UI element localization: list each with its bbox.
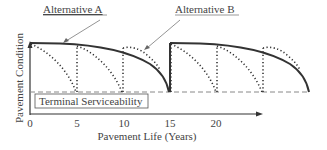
alternative-b-arrow-icon [144,45,150,50]
alternative-a-leader [66,20,100,41]
x-tick-15: 15 [165,117,177,129]
alternative-b-label: Alternative B [175,3,235,15]
alternative-b-cycle-2 [171,44,300,92]
alternative-a-curve-1 [30,43,169,92]
alternative-a-label: Alternative A [43,3,103,15]
alternative-b-cycle-1 [31,44,160,92]
x-tick-20: 20 [211,117,223,129]
pavement-life-diagram: Terminal Serviceability Alternative A Al… [0,0,327,150]
x-tick-5: 5 [74,117,80,129]
x-tick-0: 0 [27,117,33,129]
alternative-a-arrow-icon [63,38,69,43]
x-axis-arrow-icon [256,112,263,117]
terminal-serviceability-label: Terminal Serviceability [39,95,143,107]
alternative-a-curve-2 [170,43,309,92]
x-axis-label: Pavement Life (Years) [97,130,196,143]
y-axis-label: Pavement Condition [13,32,25,123]
x-tick-10: 10 [119,117,131,129]
